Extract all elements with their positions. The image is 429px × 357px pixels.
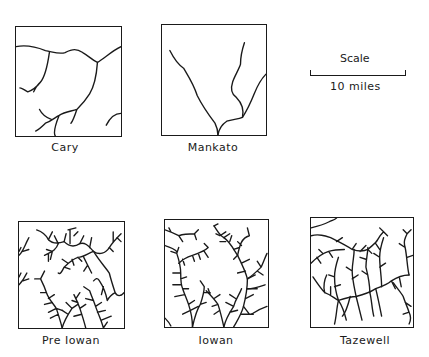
drainage-lines-mankato — [162, 25, 266, 135]
drainage-map-mankato — [161, 24, 267, 136]
drainage-map-iowan — [164, 219, 269, 328]
label-cary: Cary — [35, 141, 95, 154]
scale-bar — [310, 71, 406, 76]
drainage-map-cary — [15, 26, 122, 137]
scale-distance: 10 miles — [330, 80, 381, 93]
label-pre-iowan: Pre Iowan — [33, 334, 109, 347]
drainage-lines-cary — [16, 27, 121, 136]
drainage-map-pre-iowan — [18, 221, 125, 329]
label-mankato: Mankato — [178, 141, 248, 154]
label-iowan: Iowan — [186, 334, 246, 347]
drainage-lines-tazewell — [311, 218, 413, 327]
scale-title: Scale — [340, 52, 370, 65]
drainage-lines-pre-iowan — [19, 222, 124, 328]
drainage-lines-iowan — [165, 220, 268, 327]
label-tazewell: Tazewell — [330, 334, 400, 347]
drainage-map-tazewell — [310, 217, 414, 328]
